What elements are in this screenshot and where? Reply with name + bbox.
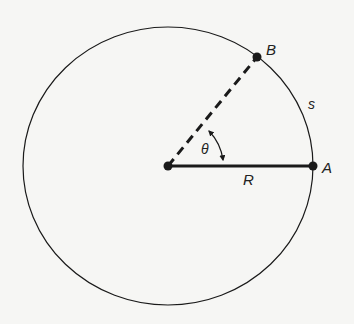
diagram-canvas: B A s R θ <box>0 0 354 324</box>
center-point <box>164 162 173 171</box>
point-a <box>309 162 318 171</box>
radius-line-dashed <box>168 57 257 166</box>
label-radius-r: R <box>243 172 254 187</box>
label-point-a: A <box>322 160 332 175</box>
circle-diagram <box>0 0 354 324</box>
label-angle-theta: θ <box>201 142 209 156</box>
point-b <box>253 53 262 62</box>
angle-arc-theta <box>209 131 223 160</box>
label-point-b: B <box>266 42 276 57</box>
label-arc-s: s <box>308 97 315 111</box>
